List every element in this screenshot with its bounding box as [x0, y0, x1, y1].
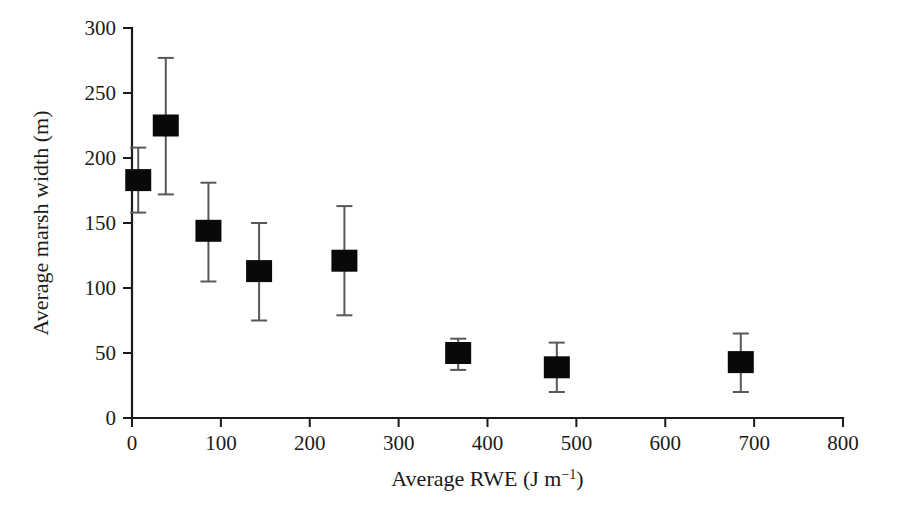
data-point [728, 334, 754, 393]
data-marker [728, 351, 754, 373]
y-tick-label: 0 [106, 406, 117, 430]
data-marker [246, 260, 272, 282]
x-axis-title: Average RWE (J m−1) [391, 466, 583, 491]
x-tick-label: 0 [127, 431, 138, 455]
data-point [153, 58, 179, 195]
data-marker [195, 220, 221, 242]
data-point [544, 343, 570, 392]
data-marker [544, 356, 570, 378]
data-point [331, 206, 357, 315]
x-tick-label: 800 [827, 431, 859, 455]
chart-figure: 0501001502002503000100200300400500600700… [0, 0, 899, 527]
y-tick-label: 200 [85, 146, 117, 170]
x-tick-label: 300 [383, 431, 415, 455]
scatter-plot-canvas: 0501001502002503000100200300400500600700… [0, 0, 899, 527]
y-tick-label: 300 [85, 16, 117, 40]
y-tick-label: 100 [85, 276, 117, 300]
data-point [246, 223, 272, 321]
x-tick-label: 700 [738, 431, 770, 455]
y-tick-label: 150 [85, 211, 117, 235]
data-marker [331, 250, 357, 272]
x-tick-label: 600 [650, 431, 682, 455]
data-marker [445, 342, 471, 364]
data-point [195, 183, 221, 282]
axis-labels-layer: 0501001502002503000100200300400500600700… [28, 16, 859, 491]
x-tick-label: 500 [561, 431, 593, 455]
data-point [445, 339, 471, 370]
y-tick-label: 50 [95, 341, 116, 365]
y-axis-title: Average marsh width (m) [28, 110, 53, 335]
data-series-layer [125, 58, 754, 392]
x-tick-label: 400 [472, 431, 504, 455]
x-tick-label: 100 [205, 431, 237, 455]
data-marker [125, 169, 151, 191]
x-tick-label: 200 [294, 431, 326, 455]
data-marker [153, 115, 179, 137]
y-tick-label: 250 [85, 81, 117, 105]
